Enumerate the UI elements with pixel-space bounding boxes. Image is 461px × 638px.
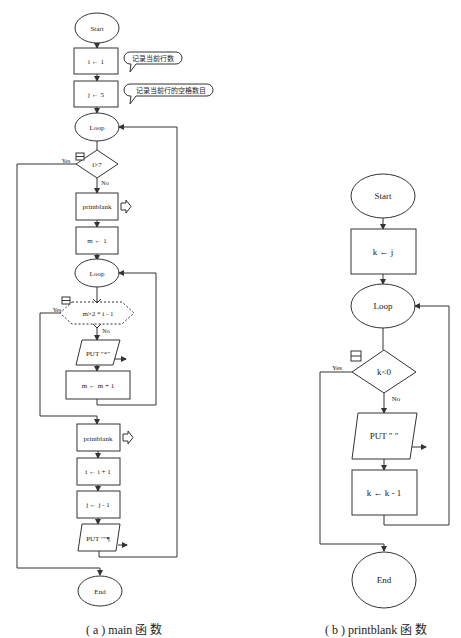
- printblank-start-label: Start: [375, 191, 392, 201]
- main-start-label: Start: [90, 25, 103, 33]
- main-init-i-label: i ← 1: [88, 58, 104, 66]
- main-inner-no-label: No: [102, 328, 109, 334]
- main-inner-loop-label: Loop: [90, 270, 105, 278]
- main-put-star-label: PUT "*": [86, 350, 110, 358]
- printblank-dec-k-label: k ← k - 1: [367, 488, 402, 498]
- main-inc-i-label: i ← i + 1: [85, 468, 111, 476]
- main-outer-loop-label: Loop: [90, 124, 105, 132]
- main-init-j-label: j ← 5: [87, 91, 104, 99]
- main-outer-yes-label: Yes: [62, 158, 71, 164]
- diagram-printblank: [320, 174, 449, 608]
- main-end-label: End: [94, 588, 106, 596]
- main-put-newline-label: PUT ""¶: [86, 535, 111, 543]
- subroutine-arrow-icon: [121, 200, 131, 213]
- main-outer-no-label: No: [101, 180, 108, 186]
- main-inner-condition-label: m>2 * i - 1: [82, 310, 114, 318]
- main-printblank-1-label: printblank: [83, 203, 112, 211]
- main-init-m-label: m ← 1: [87, 237, 107, 245]
- printblank-put-space-label: PUT " ": [370, 431, 399, 441]
- printblank-no-label: No: [392, 395, 401, 403]
- main-printblank-2-label: printblank: [84, 435, 113, 443]
- main-inc-m-label: m ← m + 1: [82, 382, 115, 390]
- flowchart-canvas: Start i ← 1 记录当前行数 j ← 5 记录当前行的空格数目 Loop…: [0, 0, 461, 638]
- caption-main: ( a ) main 函 数: [86, 620, 162, 638]
- printblank-yes-label: Yes: [332, 364, 342, 372]
- main-outer-condition-label: i>7: [92, 161, 102, 169]
- main-comment-j-label: 记录当前行的空格数目: [136, 86, 206, 95]
- main-dec-j-label: j ← j - 1: [85, 501, 110, 509]
- printblank-init-k-label: k ← j: [373, 247, 394, 257]
- diagram-main: [17, 13, 213, 606]
- main-inner-yes-label: Yes: [53, 307, 62, 313]
- printblank-condition-label: k<0: [377, 367, 392, 377]
- caption-printblank: ( b ) printblank 函 数: [325, 620, 427, 638]
- main-comment-i-label: 记录当前行数: [132, 54, 174, 63]
- subroutine-arrow-icon: [123, 431, 133, 444]
- printblank-loop-label: Loop: [374, 301, 393, 311]
- printblank-end-label: End: [377, 575, 392, 585]
